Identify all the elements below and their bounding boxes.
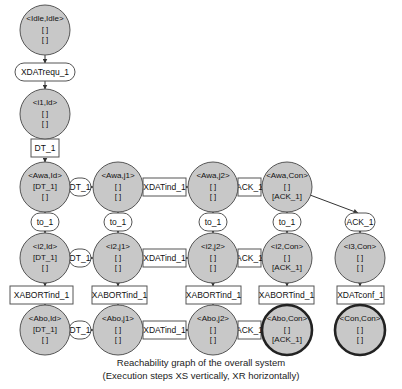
svg-text:[ ]: [ ] xyxy=(357,263,364,272)
svg-text:[ACK_1]: [ACK_1] xyxy=(272,335,302,344)
svg-text:<i2,j1>: <i2,j1> xyxy=(106,242,130,251)
svg-text:[ ]: [ ] xyxy=(357,335,364,344)
svg-text:[ ]: [ ] xyxy=(210,192,217,201)
svg-text:[ ]: [ ] xyxy=(284,325,291,334)
svg-text:to_1: to_1 xyxy=(37,217,54,227)
state-i2-con: <i2,Con> [ ] [ACK_1] xyxy=(262,233,312,283)
svg-text:to_1: to_1 xyxy=(110,217,127,227)
state-abo-con-final: <Abo,Con> [ ] [ACK_1] xyxy=(262,305,312,355)
svg-text:<Abo,Con>: <Abo,Con> xyxy=(267,314,308,323)
caption-subtitle: (Execution steps XS vertically, XR horiz… xyxy=(0,370,402,382)
svg-text:<Abo,j1>: <Abo,j1> xyxy=(102,314,134,323)
svg-text:[ ]: [ ] xyxy=(210,335,217,344)
svg-text:ACK_1: ACK_1 xyxy=(236,182,263,192)
svg-text:[ ]: [ ] xyxy=(210,325,217,334)
svg-text:<Idle,Idle>: <Idle,Idle> xyxy=(26,14,64,23)
state-con-con-final: <Con,Con> [ ] [ ] xyxy=(335,305,385,355)
state-awa-id: <Awa,Id> [DT_1] [ ] xyxy=(20,162,70,212)
state-awa-j2: <Awa,j2> [ ] [ ] xyxy=(188,162,238,212)
transition-dt-row-abo: DT_1 xyxy=(69,321,91,339)
svg-text:[ ]: [ ] xyxy=(284,253,291,262)
transition-xabort-col2: XABORTind_1 xyxy=(92,286,148,304)
svg-text:[ ]: [ ] xyxy=(42,119,49,128)
svg-text:<Awa,j2>: <Awa,j2> xyxy=(196,171,230,180)
svg-text:[ ]: [ ] xyxy=(210,253,217,262)
svg-text:[ ]: [ ] xyxy=(115,182,122,191)
svg-text:[ ]: [ ] xyxy=(42,35,49,44)
state-abo-j1: <Abo,j1> [ ] [ ] xyxy=(93,305,143,355)
svg-text:XABORTind_1: XABORTind_1 xyxy=(186,290,242,300)
svg-text:[ ]: [ ] xyxy=(210,263,217,272)
svg-text:[DT_1]: [DT_1] xyxy=(33,182,57,191)
transition-xdatind-row-i2: XDATind_1 xyxy=(143,249,186,267)
svg-text:[ ]: [ ] xyxy=(357,253,364,262)
transition-to-col1: to_1 xyxy=(31,213,59,231)
svg-text:ACK_1: ACK_1 xyxy=(236,325,263,335)
svg-text:ACK_1: ACK_1 xyxy=(236,253,263,263)
svg-text:XDATind_1: XDATind_1 xyxy=(143,253,186,263)
transition-dt-row-i2: DT_1 xyxy=(69,249,91,267)
svg-text:DT_1: DT_1 xyxy=(35,143,56,153)
svg-text:[ACK_1]: [ACK_1] xyxy=(272,263,302,272)
transition-xabort-col3: XABORTind_1 xyxy=(186,286,242,304)
state-abo-id: <Abo,Id> [DT_1] [ ] xyxy=(20,305,70,355)
transition-ack-row-i2: ACK_1 xyxy=(236,249,263,267)
svg-text:[ ]: [ ] xyxy=(115,325,122,334)
svg-text:<i2,j2>: <i2,j2> xyxy=(201,242,225,251)
svg-text:[DT_1]: [DT_1] xyxy=(33,325,57,334)
svg-text:<i2,Con>: <i2,Con> xyxy=(271,242,304,251)
transition-xdatind-row-abo: XDATind_1 xyxy=(143,321,186,339)
state-abo-j2: <Abo,j2> [ ] [ ] xyxy=(188,305,238,355)
svg-text:[ ]: [ ] xyxy=(42,263,49,272)
svg-text:DT_1: DT_1 xyxy=(70,253,91,263)
caption-title: Reachability graph of the overall system xyxy=(0,357,402,369)
svg-text:XDATconf_1: XDATconf_1 xyxy=(337,290,384,300)
svg-text:[ ]: [ ] xyxy=(284,182,291,191)
svg-text:XDATind_1: XDATind_1 xyxy=(143,325,186,335)
svg-text:[ ]: [ ] xyxy=(115,335,122,344)
svg-text:DT_1: DT_1 xyxy=(70,182,91,192)
transition-xdatconf: XDATconf_1 xyxy=(337,286,384,304)
state-awa-j1: <Awa,j1> [ ] [ ] xyxy=(93,162,143,212)
svg-text:<i1,Id>: <i1,Id> xyxy=(33,98,58,107)
svg-text:[ ]: [ ] xyxy=(115,253,122,262)
transition-ack-row-abo: ACK_1 xyxy=(236,321,263,339)
transition-dt-row-a: DT_1 xyxy=(69,178,91,196)
transition-dt-vertical: DT_1 xyxy=(31,139,59,157)
state-idle-idle: <Idle,Idle> [ ] [ ] xyxy=(20,5,70,55)
state-i2-id: <i2,Id> [DT_1] [ ] xyxy=(20,233,70,283)
svg-text:[ ]: [ ] xyxy=(42,335,49,344)
transition-xdatrequ: XDATrequ_1 xyxy=(15,63,75,81)
svg-text:[ ]: [ ] xyxy=(42,192,49,201)
svg-text:XDATind_1: XDATind_1 xyxy=(143,182,186,192)
svg-text:to_1: to_1 xyxy=(205,217,222,227)
svg-text:XABORTind_1: XABORTind_1 xyxy=(259,290,315,300)
transition-xabort-col4: XABORTind_1 xyxy=(259,286,315,304)
svg-text:to_1: to_1 xyxy=(279,217,296,227)
svg-text:[ ]: [ ] xyxy=(357,325,364,334)
svg-text:<Con,Con>: <Con,Con> xyxy=(340,314,381,323)
svg-text:<Awa,Con>: <Awa,Con> xyxy=(266,171,308,180)
svg-text:XABORTind_1: XABORTind_1 xyxy=(92,290,148,300)
state-i2-j2: <i2,j2> [ ] [ ] xyxy=(188,233,238,283)
svg-text:[ ]: [ ] xyxy=(115,192,122,201)
transition-to-col4: to_1 xyxy=(273,213,301,231)
state-i1-id: <i1,Id> [ ] [ ] xyxy=(20,89,70,139)
svg-text:<Abo,Id>: <Abo,Id> xyxy=(29,314,62,323)
transition-to-col3: to_1 xyxy=(199,213,227,231)
svg-text:XDATrequ_1: XDATrequ_1 xyxy=(21,67,69,77)
transition-ack-row-a: ACK_1 xyxy=(236,178,263,196)
svg-text:[ ]: [ ] xyxy=(210,182,217,191)
state-i3-con: <i3,Con> [ ] [ ] xyxy=(335,233,385,283)
svg-text:<Abo,j2>: <Abo,j2> xyxy=(197,314,229,323)
transition-xdatind-row-a: XDATind_1 xyxy=(143,178,186,196)
svg-text:<Awa,j1>: <Awa,j1> xyxy=(101,171,135,180)
svg-text:<i3,Con>: <i3,Con> xyxy=(344,242,377,251)
svg-text:<i2,Id>: <i2,Id> xyxy=(33,242,58,251)
svg-text:<Awa,Id>: <Awa,Id> xyxy=(28,171,62,180)
svg-text:XABORTind_1: XABORTind_1 xyxy=(14,290,70,300)
svg-text:DT_1: DT_1 xyxy=(70,325,91,335)
svg-text:[ ]: [ ] xyxy=(42,109,49,118)
svg-text:ACK_1: ACK_1 xyxy=(347,217,374,227)
transition-to-col2: to_1 xyxy=(104,213,132,231)
